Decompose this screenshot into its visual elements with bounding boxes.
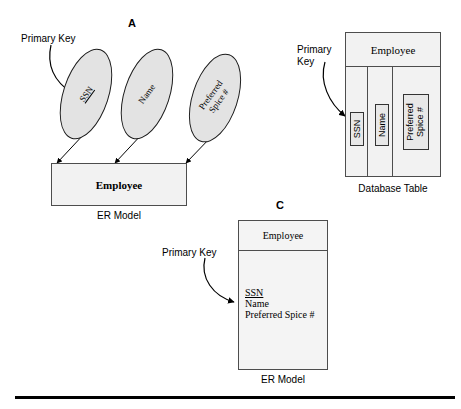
- column-label-ssn: SSN: [350, 112, 364, 146]
- callout-label-primary-key-c: Primary Key: [162, 247, 216, 259]
- column-label-name: Name: [375, 104, 389, 146]
- er-model-attribute-name: Name: [245, 298, 327, 309]
- callout-arrow-c: [204, 258, 234, 302]
- database-table-header: Employee: [346, 33, 440, 67]
- attribute-ellipse-ssn-label: SSN: [77, 84, 95, 103]
- diagram-canvas: A Primary Key SSN Name Preferred Spice #…: [0, 0, 461, 409]
- column-separator-2: [392, 67, 393, 176]
- attribute-ellipse-preferred-spice-label: Preferred Spice #: [197, 79, 233, 118]
- caption-er-model-c: ER Model: [238, 374, 328, 385]
- database-table-body: SSN Name Preferred Spice #: [346, 67, 440, 176]
- callout-arrow-b: [323, 62, 345, 116]
- er-model-box-employee: Employee SSN Name Preferred Spice #: [238, 220, 328, 370]
- callout-label-primary-key-a: Primary Key: [21, 33, 75, 45]
- bottom-divider-rule: [15, 396, 455, 399]
- caption-er-model-a: ER Model: [51, 210, 187, 221]
- er-model-attribute-list: SSN Name Preferred Spice #: [239, 251, 327, 320]
- column-separator-1: [367, 67, 368, 176]
- entity-box-employee-label: Employee: [96, 179, 142, 191]
- er-model-box-header: Employee: [239, 221, 327, 251]
- database-table-name: Employee: [371, 44, 416, 56]
- entity-box-employee: Employee: [51, 163, 187, 206]
- attribute-ellipse-preferred-spice: Preferred Spice #: [179, 47, 251, 149]
- er-model-attribute-preferred-spice: Preferred Spice #: [245, 309, 327, 320]
- callout-label-primary-key-b: Primary Key: [297, 44, 331, 68]
- er-model-attribute-ssn: SSN: [245, 287, 327, 298]
- column-label-preferred-spice: Preferred Spice #: [403, 94, 429, 150]
- er-model-entity-name: Employee: [263, 230, 304, 241]
- panel-letter-c: C: [276, 199, 284, 211]
- caption-database-table: Database Table: [335, 183, 451, 194]
- database-table-employee: Employee SSN Name Preferred Spice #: [345, 32, 441, 177]
- panel-letter-a: A: [128, 17, 136, 29]
- attribute-ellipse-name-label: Name: [137, 82, 158, 105]
